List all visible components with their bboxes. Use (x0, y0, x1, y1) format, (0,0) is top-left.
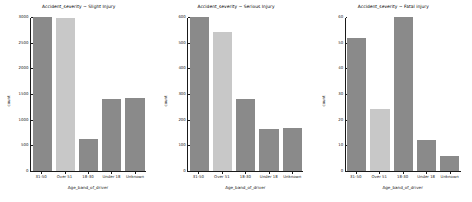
bar (440, 156, 459, 171)
x-axis-ticks: 31-50Over 5118-30Under 18Unknown (30, 172, 146, 179)
x-axis-tick-label: Over 51 (55, 172, 74, 179)
chart-title: Accident_severity ~ Serious Injury (157, 4, 314, 10)
y-axis-tick-label: 60 (338, 15, 345, 19)
chart-title: Accident_severity ~ Slight Injury (0, 4, 157, 10)
bar-series (188, 18, 303, 171)
x-axis-ticks: 31-50Over 5118-30Under 18Unknown (187, 172, 303, 179)
bar (190, 17, 209, 171)
chart-panel-serious-injury: Accident_severity ~ Serious Injury count… (157, 0, 314, 202)
y-axis-tick-label: 30 (338, 92, 345, 96)
x-axis-tick-label: Over 51 (212, 172, 231, 179)
x-axis-tick-label: Unknown (125, 172, 144, 179)
y-axis-tick-label: 300 (178, 92, 188, 96)
x-axis-label: Age_band_of_driver (345, 185, 461, 190)
y-axis-tick-label: 100 (178, 143, 188, 147)
x-axis-label: Age_band_of_driver (30, 185, 146, 190)
bar (79, 139, 98, 171)
y-axis-tick-label: 600 (178, 15, 188, 19)
plot-area: 0102030405060 (345, 18, 461, 172)
y-axis-tick-label: 2500 (19, 41, 31, 45)
bar (259, 129, 278, 171)
bar (236, 99, 255, 171)
x-axis-tick-label: 31-50 (32, 172, 51, 179)
y-axis-tick-label: 1000 (19, 118, 31, 122)
bar (283, 128, 302, 171)
chart-panel-slight-injury: Accident_severity ~ Slight Injury count … (0, 0, 157, 202)
x-axis-tick-label: 18-30 (393, 172, 412, 179)
x-axis-tick-label: Over 51 (370, 172, 389, 179)
y-axis-tick-label: 40 (338, 66, 345, 70)
bar (56, 18, 75, 171)
plot-area: 0100200300400500600 (187, 18, 303, 172)
x-axis-tick-label: Under 18 (417, 172, 436, 179)
x-axis-tick-label: 31-50 (346, 172, 365, 179)
y-axis-label: count (164, 96, 168, 107)
x-axis-label: Age_band_of_driver (187, 185, 303, 190)
y-axis-tick-label: 500 (21, 143, 31, 147)
chart-title: Accident_severity ~ Fatal injury (315, 4, 472, 10)
bar (213, 32, 232, 171)
y-axis-tick-label: 200 (178, 118, 188, 122)
y-axis-tick-label: 3000 (19, 15, 31, 19)
bar (125, 98, 144, 171)
x-axis-tick-label: 18-30 (236, 172, 255, 179)
y-axis-tick-label: 20 (338, 118, 345, 122)
y-axis-tick-label: 1500 (19, 92, 31, 96)
figure-canvas: Accident_severity ~ Slight Injury count … (0, 0, 472, 202)
x-axis-tick-label: Under 18 (259, 172, 278, 179)
x-axis-tick-label: Under 18 (102, 172, 121, 179)
bar (33, 17, 52, 171)
y-axis-tick-label: 50 (338, 41, 345, 45)
y-axis-tick-label: 500 (178, 41, 188, 45)
bar (394, 17, 413, 171)
x-axis-tick-label: Unknown (283, 172, 302, 179)
y-axis-tick-label: 10 (338, 143, 345, 147)
y-axis-label: count (322, 96, 326, 107)
y-axis-label: count (7, 96, 11, 107)
bar-series (31, 18, 146, 171)
x-axis-ticks: 31-50Over 5118-30Under 18Unknown (345, 172, 461, 179)
x-axis-tick-label: 31-50 (189, 172, 208, 179)
plot-area: 050010001500200025003000 (30, 18, 146, 172)
x-axis-tick-label: Unknown (440, 172, 459, 179)
bar (347, 38, 366, 171)
chart-panel-fatal-injury: Accident_severity ~ Fatal injury count 0… (315, 0, 472, 202)
bar (102, 99, 121, 171)
bar (417, 140, 436, 171)
y-axis-tick-label: 2000 (19, 66, 31, 70)
bar (370, 109, 389, 171)
y-axis-tick-label: 400 (178, 66, 188, 70)
x-axis-tick-label: 18-30 (78, 172, 97, 179)
bar-series (346, 18, 461, 171)
